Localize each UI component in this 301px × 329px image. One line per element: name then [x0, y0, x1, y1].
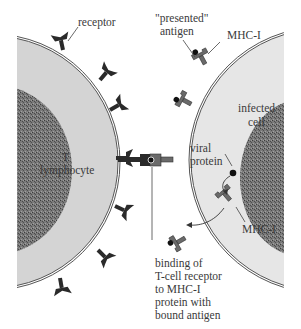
receptor-pointer	[68, 27, 78, 41]
binding-label-line4: protein with	[155, 296, 211, 309]
presented-antigen-label-line2: antigen	[160, 25, 194, 38]
viral-protein-label-line2: protein	[190, 155, 223, 168]
binding-label-line2: T-cell receptor	[155, 270, 222, 283]
binding-label-line1: binding of	[155, 257, 203, 270]
t-lymphocyte-label-line2: lymphocyte	[40, 164, 94, 177]
viral-protein-label-line1: viral	[190, 142, 211, 155]
binding-complex	[118, 154, 173, 240]
viral-protein-dot	[230, 170, 237, 177]
mhc-top-label: MHC-I	[227, 29, 261, 42]
t-lymphocyte-label-line1: T	[62, 151, 69, 164]
immunology-diagram: receptor "presented" antigen MHC-I infec…	[0, 0, 301, 329]
presented-antigen-label-line1: "presented"	[155, 12, 208, 25]
receptor-label: receptor	[78, 16, 116, 29]
infected-cell-label-line2: cell	[248, 116, 265, 129]
infected-cell-label-line1: infected	[238, 102, 275, 115]
mhc-bottom-label: MHC-I	[242, 223, 276, 236]
binding-label-line3: to MHC-I	[155, 283, 201, 296]
binding-label-line5: bound antigen	[155, 309, 220, 322]
